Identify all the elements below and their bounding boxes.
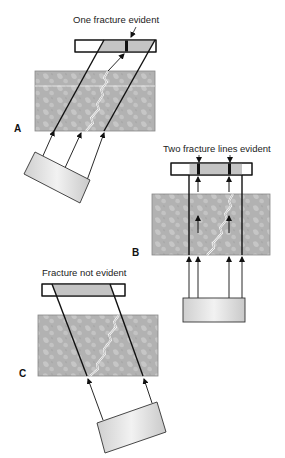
- panel-b-caption: Two fracture lines evident: [163, 143, 271, 154]
- film-a: [75, 40, 156, 52]
- fracture-radiography-diagram: One fracture evident A Two fracture line…: [0, 0, 285, 458]
- panel-b: Two fracture lines evident B: [132, 143, 271, 322]
- panel-b-letter: B: [132, 247, 139, 258]
- panel-c-caption: Fracture not evident: [42, 267, 127, 278]
- panel-a-caption: One fracture evident: [73, 14, 159, 25]
- caption-pointer-arrow-icon: [131, 27, 136, 37]
- fracture-mark: [228, 164, 231, 175]
- xray-source-b: [183, 298, 245, 322]
- panel-c: Fracture not evident C: [19, 267, 166, 453]
- film-b: [171, 163, 252, 175]
- fracture-mark: [197, 164, 200, 175]
- panel-c-letter: C: [19, 368, 26, 379]
- panel-a: One fracture evident A: [14, 14, 159, 203]
- xray-source-a: [24, 152, 90, 203]
- panel-a-letter: A: [14, 123, 21, 134]
- xray-source-c: [97, 402, 166, 453]
- object-block-b: [152, 194, 270, 255]
- fracture-mark: [125, 41, 128, 52]
- object-block-a: [35, 71, 155, 131]
